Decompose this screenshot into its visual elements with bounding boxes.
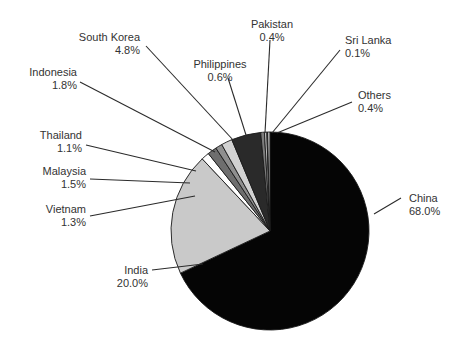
pie-label-others: Others0.4%	[358, 89, 392, 114]
pie-label-value-others: 0.4%	[358, 102, 383, 114]
leader-line-pakistan	[265, 40, 270, 133]
pie-label-name-others: Others	[358, 89, 392, 101]
pie-slices-group	[171, 132, 369, 330]
leader-line-malaysia	[90, 179, 190, 183]
leader-line-others	[277, 102, 352, 133]
pie-label-name-india: India	[124, 264, 149, 276]
pie-label-name-malaysia: Malaysia	[43, 165, 87, 177]
pie-label-vietnam: Vietnam1.3%	[46, 203, 86, 228]
leader-line-philippines	[228, 78, 246, 135]
pie-label-philippines: Philippines0.6%	[193, 58, 247, 83]
pie-label-name-china: China	[409, 192, 439, 204]
pie-label-india: India20.0%	[117, 264, 149, 289]
leader-line-thailand	[86, 145, 196, 171]
pie-label-value-sri-lanka: 0.1%	[345, 47, 370, 59]
pie-chart-figure: China68.0%India20.0%Vietnam1.3%Malaysia1…	[0, 0, 455, 338]
pie-label-value-india: 20.0%	[117, 277, 148, 289]
pie-label-value-thailand: 1.1%	[57, 142, 82, 154]
pie-label-sri-lanka: Sri Lanka0.1%	[345, 34, 392, 59]
pie-label-value-china: 68.0%	[409, 205, 440, 217]
leader-line-indonesia	[80, 82, 215, 152]
pie-label-malaysia: Malaysia1.5%	[43, 165, 87, 190]
pie-label-indonesia: Indonesia1.8%	[29, 66, 78, 91]
pie-label-name-indonesia: Indonesia	[29, 66, 78, 78]
pie-label-pakistan: Pakistan0.4%	[251, 18, 293, 43]
pie-label-name-vietnam: Vietnam	[46, 203, 86, 215]
pie-label-name-sri-lanka: Sri Lanka	[345, 34, 392, 46]
pie-label-value-south-korea: 4.8%	[115, 44, 140, 56]
pie-label-name-thailand: Thailand	[40, 129, 82, 141]
pie-label-value-pakistan: 0.4%	[259, 31, 284, 43]
pie-label-name-philippines: Philippines	[193, 58, 247, 70]
pie-label-thailand: Thailand1.1%	[40, 129, 82, 154]
pie-label-value-indonesia: 1.8%	[52, 79, 77, 91]
leader-line-china	[374, 198, 401, 214]
pie-label-south-korea: South Korea4.8%	[79, 31, 141, 56]
pie-label-value-philippines: 0.6%	[207, 71, 232, 83]
pie-label-name-south-korea: South Korea	[79, 31, 141, 43]
pie-label-value-vietnam: 1.3%	[61, 216, 86, 228]
pie-label-china: China68.0%	[409, 192, 440, 217]
pie-chart-canvas: China68.0%India20.0%Vietnam1.3%Malaysia1…	[0, 0, 455, 338]
pie-label-value-malaysia: 1.5%	[61, 178, 86, 190]
pie-label-name-pakistan: Pakistan	[251, 18, 293, 30]
